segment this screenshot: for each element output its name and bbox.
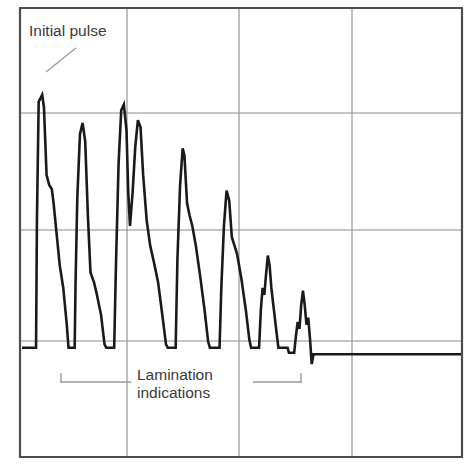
- lamination-label-line1: Lamination: [137, 366, 213, 383]
- chart-background: [0, 0, 469, 472]
- oscilloscope-chart: [0, 0, 469, 472]
- initial-pulse-label: Initial pulse: [29, 22, 107, 40]
- lamination-label-line2: indications: [137, 384, 213, 402]
- lamination-indications-label: Laminationindications: [137, 366, 213, 402]
